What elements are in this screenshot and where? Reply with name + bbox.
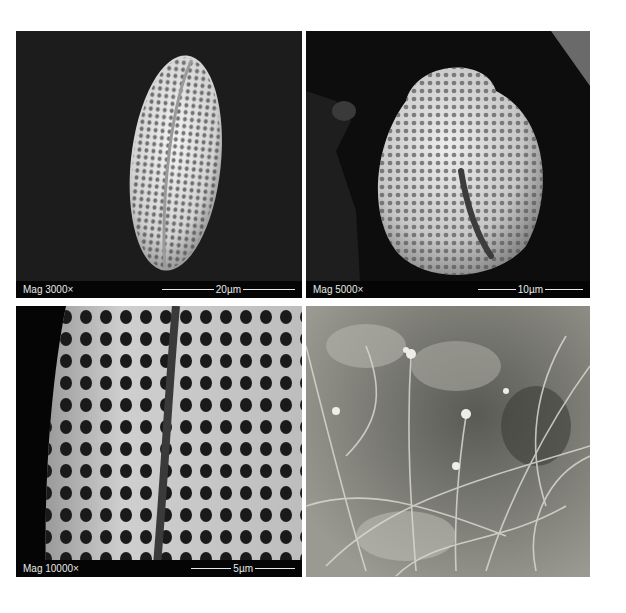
- scale-bar-label: 10µm: [516, 284, 545, 295]
- scale-bar-line: [162, 289, 214, 290]
- scale-bar: 5µm: [191, 560, 295, 577]
- scale-bar-label: 20µm: [214, 284, 243, 295]
- pollen-grain-rounded-image: [306, 31, 590, 298]
- exine-closeup-image: [16, 306, 302, 577]
- scale-bar-line: [545, 289, 583, 290]
- scale-bar-line: [191, 568, 231, 569]
- scale-bar-line: [255, 568, 295, 569]
- sem-info-bar: Mag 10000× 5µm: [16, 560, 302, 577]
- sem-panel-5000x: Mag 5000× 10µm: [306, 31, 590, 298]
- plant-photo: [306, 306, 590, 577]
- scale-bar-line: [243, 289, 295, 290]
- scale-bar: 20µm: [162, 281, 295, 298]
- scale-bar-label: 5µm: [231, 563, 255, 574]
- sem-info-bar: Mag 3000× 20µm: [16, 281, 302, 298]
- magnification-label: Mag 10000×: [23, 563, 79, 574]
- scale-bar-line: [478, 289, 516, 290]
- plant-photo-image: [306, 306, 590, 577]
- sem-panel-3000x: Mag 3000× 20µm: [16, 31, 302, 298]
- magnification-label: Mag 3000×: [23, 284, 73, 295]
- scale-bar: 10µm: [478, 281, 583, 298]
- pollen-grain-elongated-image: [16, 31, 302, 298]
- magnification-label: Mag 5000×: [313, 284, 363, 295]
- sem-panel-10000x: Mag 10000× 5µm: [16, 306, 302, 577]
- sem-info-bar: Mag 5000× 10µm: [306, 281, 590, 298]
